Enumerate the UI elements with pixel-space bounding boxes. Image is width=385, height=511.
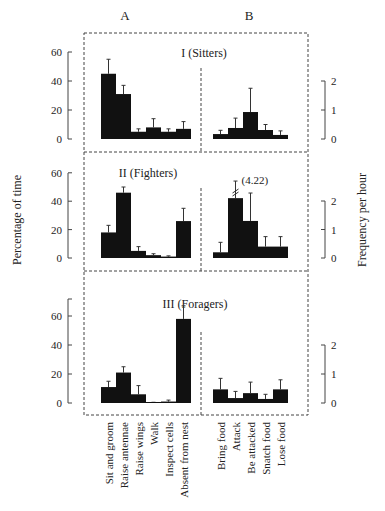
right-tick-label: 1 bbox=[331, 368, 337, 380]
panel-title: II (Fighters) bbox=[119, 166, 177, 180]
left-tick-label: 60 bbox=[51, 310, 63, 322]
left-tick-label: 60 bbox=[51, 46, 63, 58]
x-label-b: Bring food bbox=[215, 422, 227, 470]
bar-b bbox=[273, 135, 288, 139]
bar-b bbox=[273, 247, 288, 258]
x-label-a: Walk bbox=[148, 422, 160, 445]
bar-a bbox=[176, 221, 191, 258]
x-label-b: Snatch food bbox=[260, 422, 272, 475]
bar-b bbox=[243, 393, 258, 403]
left-tick-label: 40 bbox=[51, 339, 63, 351]
bar-b bbox=[243, 112, 258, 139]
bar-a bbox=[146, 127, 161, 139]
right-tick-label: 2 bbox=[331, 195, 337, 207]
right-tick-label: 0 bbox=[331, 397, 337, 409]
left-tick-label: 0 bbox=[57, 397, 63, 409]
bar-a bbox=[176, 319, 191, 403]
left-tick-label: 20 bbox=[51, 368, 63, 380]
bar-a bbox=[116, 193, 131, 258]
bar-b bbox=[228, 198, 243, 258]
error-annotation: (4.22) bbox=[242, 174, 269, 187]
x-label-a: Raise wings bbox=[133, 422, 145, 475]
bar-b bbox=[273, 389, 288, 403]
bar-a bbox=[101, 74, 116, 139]
bar-a bbox=[101, 232, 116, 258]
bar-b bbox=[243, 221, 258, 258]
panel-3: III (Foragers)0204060012 bbox=[51, 297, 337, 409]
bar-a bbox=[161, 257, 176, 258]
left-tick-label: 60 bbox=[51, 167, 63, 179]
right-tick-label: 1 bbox=[331, 224, 337, 236]
bar-a bbox=[116, 373, 131, 403]
left-tick-label: 0 bbox=[57, 133, 63, 145]
bar-a bbox=[146, 255, 161, 258]
x-label-a: Raise antennae bbox=[118, 422, 130, 488]
right-axis-label: Frequency per hour bbox=[355, 173, 369, 267]
bar-a bbox=[131, 132, 146, 139]
bar-a bbox=[161, 132, 176, 139]
bar-a bbox=[131, 251, 146, 258]
panel-1: I (Sitters)0204060012 bbox=[51, 46, 337, 145]
left-axis-label: Percentage of time bbox=[10, 175, 24, 265]
column-label-b: B bbox=[245, 8, 254, 23]
bar-b bbox=[258, 130, 273, 139]
left-tick-label: 0 bbox=[57, 252, 63, 264]
panel-title: III (Foragers) bbox=[163, 297, 228, 311]
right-tick-label: 2 bbox=[331, 75, 337, 87]
behavior-bar-chart: A B Percentage of time Frequency per hou… bbox=[0, 0, 385, 511]
left-tick-label: 20 bbox=[51, 104, 63, 116]
x-label-a: Inspect cells bbox=[163, 422, 175, 477]
x-label-b: Attack bbox=[230, 422, 242, 452]
bar-a bbox=[131, 394, 146, 403]
bar-b bbox=[213, 389, 228, 403]
left-tick-label: 40 bbox=[51, 75, 63, 87]
bar-a bbox=[116, 94, 131, 139]
right-tick-label: 0 bbox=[331, 133, 337, 145]
right-tick-label: 2 bbox=[331, 339, 337, 351]
x-label-b: Be attacked bbox=[245, 422, 257, 474]
bar-a bbox=[101, 387, 116, 403]
bar-a bbox=[161, 402, 176, 403]
right-tick-label: 0 bbox=[331, 252, 337, 264]
x-label-a: Sit and groom bbox=[103, 422, 115, 485]
panel-title: I (Sitters) bbox=[181, 46, 227, 60]
x-label-a: Absent from nest bbox=[178, 422, 190, 498]
x-label-b: Lose food bbox=[275, 422, 287, 467]
panel-2: II (Fighters)0204060012(4.22) bbox=[51, 166, 337, 264]
left-tick-label: 20 bbox=[51, 224, 63, 236]
left-tick-label: 40 bbox=[51, 195, 63, 207]
bar-a bbox=[146, 402, 161, 403]
bar-b bbox=[213, 134, 228, 139]
bar-b bbox=[228, 128, 243, 139]
bar-a bbox=[176, 129, 191, 139]
bar-b bbox=[213, 252, 228, 258]
bar-b bbox=[258, 399, 273, 403]
column-label-a: A bbox=[120, 8, 130, 23]
bar-b bbox=[258, 247, 273, 258]
bar-b bbox=[228, 398, 243, 403]
right-tick-label: 1 bbox=[331, 104, 337, 116]
